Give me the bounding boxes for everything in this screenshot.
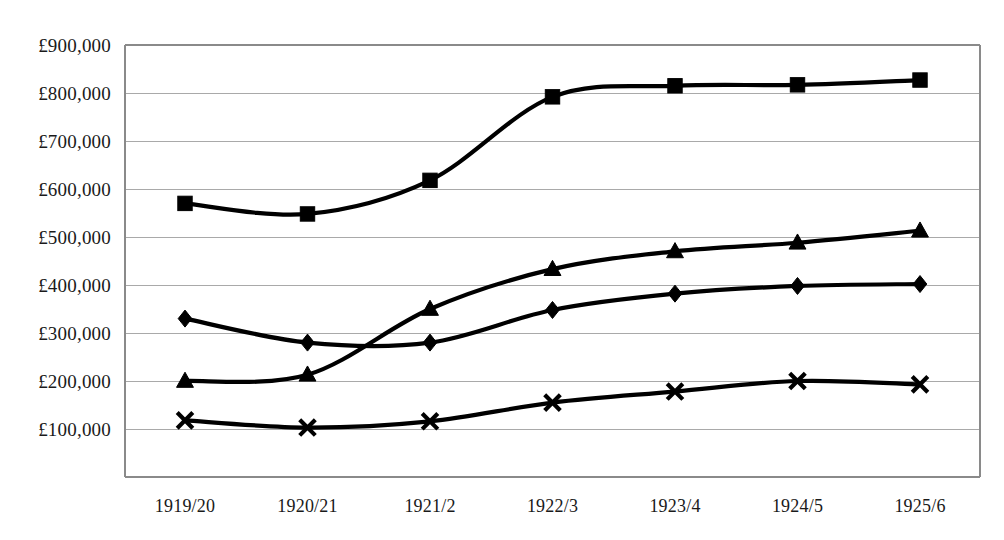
data-point-marker-diamond: [913, 276, 927, 293]
data-point-marker-diamond: [178, 310, 192, 327]
x-axis-tick-label: 1919/20: [155, 496, 215, 516]
y-axis-tick-label: £600,000: [38, 179, 111, 200]
series-lines: [185, 80, 920, 428]
y-axis-tick-label: £100,000: [38, 419, 111, 440]
y-axis-tick-labels: £900,000£800,000£700,000£600,000£500,000…: [38, 35, 111, 440]
y-axis-tick-label: £800,000: [38, 83, 111, 104]
data-point-marker-diamond: [423, 334, 437, 351]
data-point-marker-diamond: [668, 285, 682, 302]
data-point-marker-square: [423, 173, 437, 187]
data-point-marker-diamond: [546, 301, 560, 318]
y-axis-tick-label: £700,000: [38, 131, 111, 152]
data-point-marker-square: [178, 196, 192, 210]
line-chart: £900,000£800,000£700,000£600,000£500,000…: [0, 0, 1004, 540]
x-axis-tick-label: 1924/5: [772, 496, 823, 516]
data-point-marker-square: [300, 207, 314, 221]
y-axis-tick-label: £300,000: [38, 323, 111, 344]
data-point-marker-square: [668, 79, 682, 93]
x-axis-tick-labels: 1919/201920/211921/21922/31923/41924/519…: [155, 496, 946, 516]
y-axis-tick-label: £500,000: [38, 227, 111, 248]
x-axis-tick-label: 1921/2: [404, 496, 455, 516]
x-axis-tick-label: 1922/3: [527, 496, 578, 516]
y-axis-tick-label: £400,000: [38, 275, 111, 296]
data-point-marker-square: [545, 90, 559, 104]
x-axis-tick-label: 1923/4: [649, 496, 700, 516]
data-point-marker-diamond: [791, 277, 805, 294]
y-axis-tick-label: £200,000: [38, 371, 111, 392]
x-axis-tick-label: 1920/21: [277, 496, 337, 516]
data-point-marker-square: [790, 78, 804, 92]
series-markers-square: [178, 73, 927, 221]
x-axis-tick-label: 1925/6: [894, 496, 945, 516]
y-axis-tick-label: £900,000: [38, 35, 111, 56]
chart-container: £900,000£800,000£700,000£600,000£500,000…: [0, 0, 1004, 540]
data-point-marker-square: [913, 73, 927, 87]
data-point-marker-diamond: [301, 334, 315, 351]
